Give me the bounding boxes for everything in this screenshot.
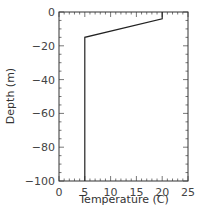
axis-ticks <box>59 12 188 181</box>
temperature-profile-line <box>85 12 162 181</box>
y-tick-labels: 0−20−40−60−80−100 <box>25 6 55 188</box>
y-tick-label: −40 <box>32 74 55 87</box>
x-tick-label: 0 <box>56 186 63 199</box>
y-axis-label: Depth (m) <box>4 68 17 124</box>
plot-frame <box>59 12 188 181</box>
x-tick-label: 25 <box>181 186 195 199</box>
y-tick-label: −20 <box>32 40 55 53</box>
x-axis-label: Temperature (C) <box>78 193 168 206</box>
y-tick-label: 0 <box>48 6 55 19</box>
y-tick-label: −80 <box>32 141 55 154</box>
temperature-depth-chart: 0510152025 0−20−40−60−80−100 Temperature… <box>0 0 202 213</box>
y-tick-label: −60 <box>32 107 55 120</box>
y-tick-label: −100 <box>25 175 55 188</box>
